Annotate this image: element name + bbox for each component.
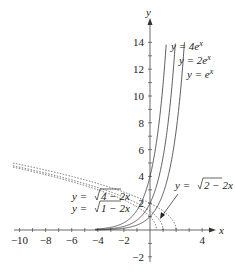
svg-text:1 − 2x: 1 − 2x — [101, 202, 130, 214]
y-tick-label: 10 — [133, 90, 145, 102]
y-tick-label: 6 — [139, 144, 145, 156]
label-2ex: y = 2ex — [178, 53, 211, 66]
x-axis-arrow-icon — [209, 228, 216, 233]
label-4ex: y = 4ex — [170, 39, 203, 52]
svg-text:y =: y = — [71, 190, 87, 202]
y-axis-arrow-icon — [148, 18, 153, 25]
curves — [13, 42, 184, 230]
x-tick-label: −6 — [66, 234, 78, 246]
svg-text:y =: y = — [174, 179, 190, 191]
label-ex: y = ex — [186, 67, 214, 80]
svg-text:4 − 2x: 4 − 2x — [101, 190, 130, 202]
x-tick-label: 4 — [199, 234, 205, 246]
svg-text:y =: y = — [71, 202, 87, 214]
svg-text:2 − 2x: 2 − 2x — [204, 179, 233, 191]
y-tick-label: 8 — [139, 117, 145, 129]
x-tick-label: −4 — [92, 234, 104, 246]
y-tick-label: 12 — [133, 63, 144, 75]
x-tick-label: −8 — [40, 234, 52, 246]
y-tick-label: 14 — [133, 36, 145, 48]
x-tick-label: −10 — [11, 234, 29, 246]
x-tick-label: −2 — [118, 234, 130, 246]
label-sqrt-1-2x: y = 1 − 2x — [71, 201, 130, 214]
y-axis-label: y — [145, 6, 151, 18]
x-axis-label: x — [218, 224, 224, 236]
y-tick-label: 4 — [139, 170, 145, 182]
label-sqrt-4-2x: y = 4 − 2x — [71, 189, 130, 202]
y-tick-label: −2 — [132, 251, 144, 263]
label-sqrt-2-2x: y = 2 − 2x — [160, 178, 233, 219]
chart-plot: x y −10−8−6−4−241412108642−2 y = 4ex y =… — [0, 0, 235, 278]
